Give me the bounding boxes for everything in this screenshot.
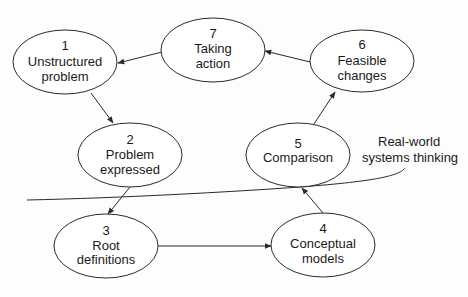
- node-1-line2: problem: [42, 69, 89, 84]
- edge-7-to-1: [118, 52, 162, 63]
- node-5-number: 5: [294, 136, 301, 151]
- node-4-number: 4: [319, 221, 326, 236]
- node-2-line1: Problem: [106, 147, 154, 162]
- ssm-diagram: 1 Unstructured problem 7 Taking action 6…: [0, 0, 468, 297]
- edge-1-to-2: [91, 93, 113, 123]
- boundary-line: [27, 168, 405, 200]
- boundary-label-systems-thinking: systems thinking: [362, 150, 458, 165]
- node-2-problem-expressed: 2 Problem expressed: [78, 123, 182, 187]
- node-2-number: 2: [126, 132, 133, 147]
- node-2-line2: expressed: [100, 162, 160, 177]
- node-6-feasible-changes: 6 Feasible changes: [310, 30, 414, 92]
- node-5-comparison: 5 Comparison: [246, 123, 350, 187]
- boundary-label-real-world: Real-world: [378, 134, 440, 149]
- node-5-line1: Comparison: [263, 150, 333, 165]
- node-4-line2: models: [302, 251, 344, 266]
- edge-2-to-3: [108, 187, 130, 214]
- node-1-line1: Unstructured: [28, 54, 102, 69]
- node-3-number: 3: [102, 223, 109, 238]
- edge-6-to-7: [265, 51, 310, 62]
- node-3-root-definitions: 3 Root definitions: [54, 214, 158, 278]
- node-1-unstructured-problem: 1 Unstructured problem: [13, 30, 117, 94]
- node-7-line2: action: [196, 56, 231, 71]
- node-6-number: 6: [358, 37, 365, 52]
- node-3-line2: definitions: [77, 252, 136, 267]
- node-7-taking-action: 7 Taking action: [161, 18, 265, 82]
- node-7-number: 7: [209, 26, 216, 41]
- edge-5-to-6: [314, 92, 335, 124]
- node-4-line1: Conceptual: [290, 236, 356, 251]
- node-6-line2: changes: [337, 68, 387, 83]
- node-6-line1: Feasible: [337, 53, 386, 68]
- diagram-svg: 1 Unstructured problem 7 Taking action 6…: [0, 0, 468, 297]
- node-3-line1: Root: [92, 238, 120, 253]
- edge-4-to-5: [302, 188, 323, 213]
- node-4-conceptual-models: 4 Conceptual models: [271, 213, 375, 277]
- node-7-line1: Taking: [194, 41, 232, 56]
- node-1-number: 1: [61, 38, 68, 53]
